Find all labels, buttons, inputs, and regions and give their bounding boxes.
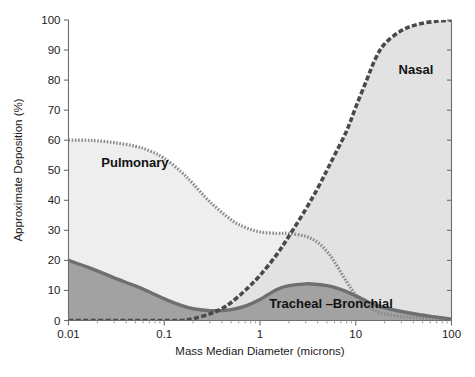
x-tick-label: 100 bbox=[442, 328, 461, 340]
y-tick-label: 30 bbox=[48, 224, 61, 236]
y-tick-label: 100 bbox=[41, 14, 60, 26]
x-tick-label: 1 bbox=[257, 328, 263, 340]
pulmonary-label: Pulmonary bbox=[101, 155, 169, 170]
deposition-chart: 0102030405060708090100 0.010.1110100 Nas… bbox=[0, 0, 475, 377]
y-tick-label: 20 bbox=[48, 254, 61, 266]
x-tick-label: 10 bbox=[349, 328, 362, 340]
y-tick-label: 90 bbox=[48, 44, 61, 56]
y-tick-label: 0 bbox=[54, 315, 60, 327]
chart-svg: 0102030405060708090100 0.010.1110100 Nas… bbox=[0, 0, 475, 377]
x-tick-label: 0.1 bbox=[156, 328, 172, 340]
y-tick-label: 80 bbox=[48, 74, 61, 86]
y-tick-label: 70 bbox=[48, 104, 61, 116]
y-tick-label: 40 bbox=[48, 194, 61, 206]
y-tick-label: 50 bbox=[48, 164, 61, 176]
y-axis-title: Approximate Deposition (%) bbox=[12, 98, 24, 241]
x-tick-label: 0.01 bbox=[57, 328, 79, 340]
nasal-label: Nasal bbox=[399, 62, 434, 77]
tracheal-bronchial-label: Tracheal –Bronchial bbox=[269, 296, 393, 311]
x-axis-title: Mass Median Diameter (microns) bbox=[175, 345, 345, 357]
y-tick-label: 10 bbox=[48, 284, 61, 296]
y-tick-label: 60 bbox=[48, 134, 61, 146]
